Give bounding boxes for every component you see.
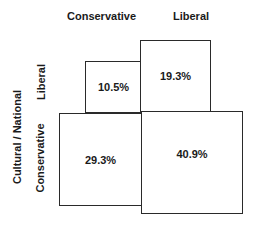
cell-value: 19.3% — [160, 70, 191, 82]
cell-conservative-liberal: 40.9% — [141, 111, 243, 214]
cell-liberal-liberal: 19.3% — [140, 40, 211, 112]
column-label-liberal: Liberal — [173, 10, 209, 22]
column-label-conservative: Conservative — [67, 10, 136, 22]
cell-conservative-conservative: 29.3% — [59, 113, 142, 206]
row-label-liberal: Liberal — [35, 52, 47, 112]
cell-liberal-conservative: 10.5% — [85, 61, 142, 113]
cell-value: 40.9% — [176, 148, 207, 160]
row-label-conservative: Conservative — [34, 113, 46, 203]
cell-value: 29.3% — [85, 154, 116, 166]
cell-value: 10.5% — [98, 81, 129, 93]
row-axis-title: Cultural / National — [11, 87, 23, 187]
